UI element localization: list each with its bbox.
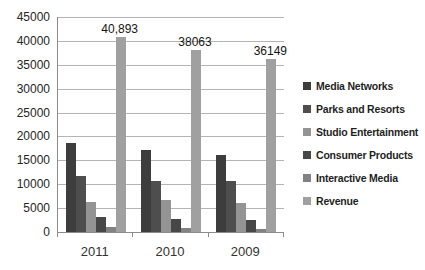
bar-media-networks-2011 <box>66 143 76 232</box>
legend-marker-icon <box>303 128 311 136</box>
legend-label: Revenue <box>316 195 358 207</box>
legend-item-revenue: Revenue <box>303 189 418 212</box>
x-axis-category-label: 2010 <box>132 244 207 259</box>
y-axis-tick-label: 15000 <box>2 153 50 167</box>
bar-studio-entertainment-2009 <box>236 203 246 232</box>
legend: Media NetworksParks and ResortsStudio En… <box>303 74 418 212</box>
y-axis-tick-label: 5000 <box>2 201 50 215</box>
legend-label: Interactive Media <box>316 172 398 184</box>
bar-chart-figure: 4500040000350003000025000200001500010000… <box>0 0 425 270</box>
legend-marker-icon <box>303 197 311 205</box>
bar-group-2011 <box>58 17 133 232</box>
legend-item-interactive-media: Interactive Media <box>303 166 418 189</box>
x-axis-tick <box>283 233 284 237</box>
x-axis-tick <box>208 233 209 237</box>
x-axis-tick <box>132 233 133 237</box>
bar-interactive-media-2011 <box>106 227 116 232</box>
y-axis-tick-label: 40000 <box>2 34 50 48</box>
data-label-2011: 40,893 <box>101 22 138 36</box>
legend-label: Media Networks <box>316 80 393 92</box>
legend-marker-icon <box>303 105 311 113</box>
legend-label: Parks and Resorts <box>316 103 405 115</box>
y-axis-tick-label: 35000 <box>2 58 50 72</box>
y-axis-tick-label: 10000 <box>2 177 50 191</box>
y-axis-tick-label: 25000 <box>2 106 50 120</box>
data-label-2009: 36149 <box>254 44 287 58</box>
legend-label: Studio Entertainment <box>316 126 418 138</box>
bar-interactive-media-2009 <box>256 229 266 232</box>
legend-marker-icon <box>303 82 311 90</box>
bar-media-networks-2010 <box>141 150 151 232</box>
bar-parks-and-resorts-2009 <box>226 181 236 232</box>
y-axis-tick-label: 0 <box>2 225 50 239</box>
bar-consumer-products-2011 <box>96 217 106 232</box>
bar-consumer-products-2009 <box>246 220 256 232</box>
x-axis-category-label: 2011 <box>57 244 132 259</box>
x-axis-category-label: 2009 <box>208 244 283 259</box>
bar-consumer-products-2010 <box>171 219 181 232</box>
legend-item-consumer-products: Consumer Products <box>303 143 418 166</box>
bar-media-networks-2009 <box>216 155 226 232</box>
legend-item-studio-entertainment: Studio Entertainment <box>303 120 418 143</box>
legend-marker-icon <box>303 174 311 182</box>
bar-studio-entertainment-2011 <box>86 202 96 232</box>
y-axis-tick-label: 45000 <box>2 10 50 24</box>
y-axis-tick-label: 30000 <box>2 82 50 96</box>
legend-item-media-networks: Media Networks <box>303 74 418 97</box>
plot-area <box>57 17 284 233</box>
legend-marker-icon <box>303 151 311 159</box>
bar-studio-entertainment-2010 <box>161 200 171 232</box>
x-axis-tick <box>57 233 58 237</box>
y-axis-tick-label: 20000 <box>2 129 50 143</box>
bar-revenue-2011 <box>116 37 126 232</box>
bar-parks-and-resorts-2011 <box>76 176 86 232</box>
bar-revenue-2010 <box>191 50 201 232</box>
legend-item-parks-and-resorts: Parks and Resorts <box>303 97 418 120</box>
bar-parks-and-resorts-2010 <box>151 181 161 232</box>
bar-revenue-2009 <box>266 59 276 232</box>
legend-label: Consumer Products <box>316 149 413 161</box>
data-label-2010: 38063 <box>178 35 211 49</box>
bar-interactive-media-2010 <box>181 228 191 232</box>
bar-group-2010 <box>133 17 208 232</box>
